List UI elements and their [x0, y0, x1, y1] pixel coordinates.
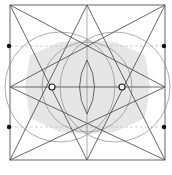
left-lower-dot — [7, 125, 11, 129]
left-upper-dot — [7, 44, 11, 48]
right-upper-dot — [162, 44, 166, 48]
right-lower-dot — [162, 125, 166, 129]
right-open-point — [119, 84, 125, 90]
left-open-point — [49, 84, 55, 90]
geometric-diagram — [0, 0, 172, 175]
